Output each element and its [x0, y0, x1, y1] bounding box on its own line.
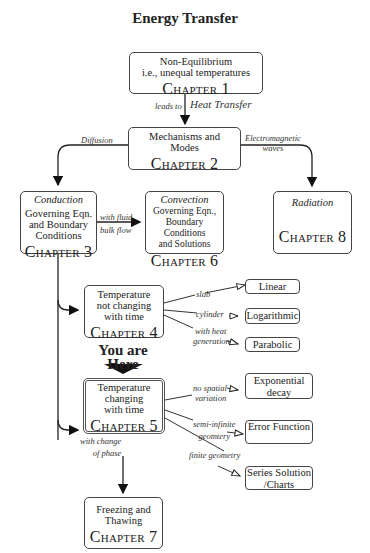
- result-text: Function: [273, 421, 310, 432]
- node-text: Boundary Conditions: [146, 217, 223, 239]
- edge-label-electromagnetic: Electromagnetic waves: [245, 134, 301, 153]
- node-text: and Solutions: [146, 239, 223, 250]
- edge-label-semi-infinite: semi-infinite geomtery: [193, 420, 236, 441]
- node-text: Temperature: [86, 382, 162, 393]
- node-chapter-2: Mechanisms and Modes Chapter 2: [128, 127, 241, 170]
- node-text: with time: [86, 404, 162, 415]
- node-chapter-5-current: Temperature changing with time Chapter 5: [83, 378, 165, 434]
- result-text: Error: [248, 421, 270, 432]
- node-text: changing: [86, 393, 162, 404]
- label-line: with change: [80, 437, 121, 447]
- node-heading: Radiation: [274, 197, 351, 208]
- node-chapter-1: Non-Equilibrium i.e., unequal temperatur…: [129, 52, 263, 94]
- node-chapter-4: Temperature not changing with time Chapt…: [84, 285, 164, 338]
- result-text: Logarithmic: [247, 310, 299, 321]
- node-text: and Boundary: [21, 219, 96, 230]
- result-text: Linear: [259, 281, 286, 292]
- edge-label-diffusion: Diffusion: [81, 136, 113, 146]
- node-chapter-7: Freezing and Thawing Chapter 7: [84, 497, 163, 549]
- node-chapter-6-convection: Convection Governing Eqn., Boundary Cond…: [145, 191, 224, 254]
- result-text: Parabolic: [253, 339, 293, 350]
- node-text: Modes: [129, 142, 240, 153]
- result-text: /Charts: [264, 479, 294, 490]
- edge-label-heat-transfer: Heat Transfer: [190, 100, 251, 110]
- edge-label-no-spatial-variation: no spatial variation: [193, 384, 227, 403]
- edge-label-leads-to: leads to: [155, 102, 182, 112]
- you-are-here-marker: You are Here: [83, 343, 163, 371]
- label-line: waves: [245, 144, 301, 154]
- result-error-function: Error Function: [245, 420, 313, 444]
- chapter-label: Chapter 4: [85, 324, 163, 342]
- label-line: generation: [193, 337, 230, 347]
- label-line: of phase: [80, 449, 121, 459]
- node-text: Mechanisms and: [129, 131, 240, 142]
- result-series-solution: Series Solution /Charts: [245, 466, 313, 490]
- node-text: i.e., unequal temperatures: [130, 67, 262, 78]
- edge-label-finite-geometry: finite geometry: [189, 451, 240, 461]
- result-exponential-decay: Exponential decay: [245, 373, 313, 399]
- node-text: Thawing: [85, 515, 162, 526]
- edge-label-fluid-flow: with fluid bulk flow: [100, 213, 132, 235]
- chapter-label: Chapter 1: [130, 80, 262, 98]
- node-heading: Convection: [146, 194, 223, 205]
- chapter-label: Chapter 8: [274, 228, 351, 246]
- chapter-label: Chapter 3: [21, 243, 96, 261]
- result-parabolic: Parabolic: [245, 337, 300, 352]
- node-chapter-8-radiation: Radiation Chapter 8: [273, 191, 352, 254]
- node-text: Conditions: [21, 230, 96, 241]
- chapter-label: Chapter 5: [86, 417, 162, 435]
- label-line: bulk flow: [100, 226, 132, 236]
- result-text: decay: [267, 387, 291, 398]
- chapter-label: Chapter 7: [85, 528, 162, 546]
- label-line: with fluid: [100, 213, 132, 223]
- edge-label-cylinder: cylinder: [196, 310, 224, 320]
- label-line: semi-infinite: [193, 420, 236, 430]
- node-chapter-3-conduction: Conduction Governing Eqn. and Boundary C…: [20, 191, 97, 254]
- edge-label-slab: slab: [196, 290, 210, 300]
- result-text: Exponential: [254, 375, 305, 386]
- node-heading: Conduction: [21, 194, 96, 205]
- label-line: geomtery: [193, 432, 236, 442]
- node-text: Governing Eqn.: [21, 208, 96, 219]
- node-text: Freezing and: [85, 504, 162, 515]
- chapter-label: Chapter 2: [129, 155, 240, 173]
- edge-label-phase-change: with change of phase: [80, 437, 121, 458]
- result-linear: Linear: [245, 279, 300, 294]
- node-text: not changing: [85, 300, 163, 311]
- node-text: Non-Equilibrium: [130, 56, 262, 67]
- node-text: with time: [85, 311, 163, 322]
- edge-label-heat-generation: with heat generation: [193, 327, 230, 346]
- node-text: Governing Eqn.,: [146, 206, 223, 217]
- result-text: Series Solution: [247, 467, 311, 478]
- node-text: Temperature: [85, 289, 163, 300]
- label-line: variation: [193, 394, 227, 404]
- chapter-label: Chapter 6: [146, 252, 223, 270]
- result-logarithmic: Logarithmic: [245, 308, 300, 324]
